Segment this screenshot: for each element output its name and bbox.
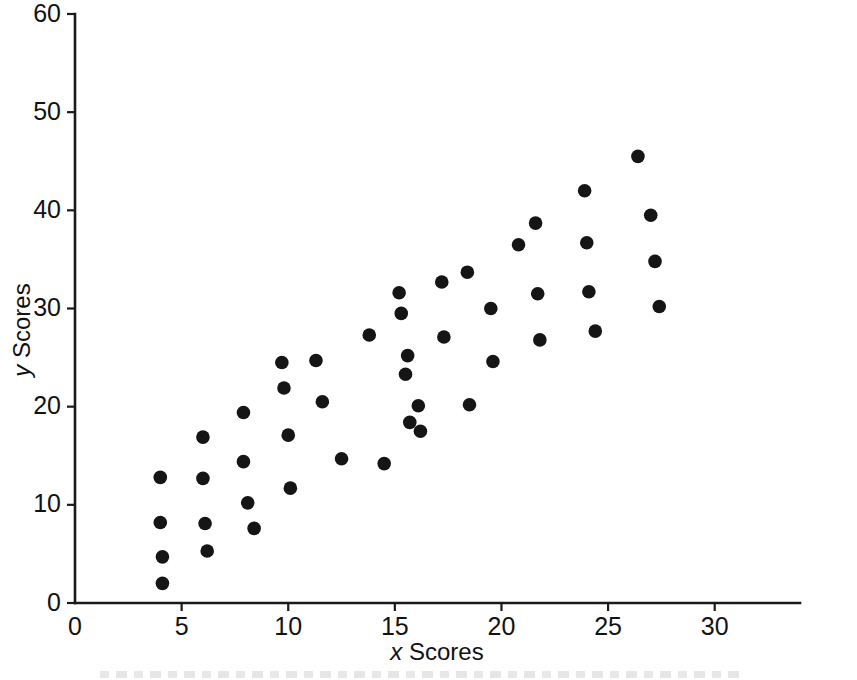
data-point <box>316 395 330 409</box>
data-point <box>394 307 408 321</box>
data-point <box>531 287 545 301</box>
y-tick-label: 60 <box>33 0 61 27</box>
x-tick-label: 30 <box>701 612 729 640</box>
x-tick-label: 15 <box>381 612 409 640</box>
x-tick-label: 10 <box>274 612 302 640</box>
y-tick-label: 50 <box>33 97 61 125</box>
y-axis-title: y Scores <box>8 283 35 378</box>
y-tick-label: 10 <box>33 489 61 517</box>
y-tick-label: 20 <box>33 391 61 419</box>
x-axis-ticks: 051015202530 <box>68 603 729 640</box>
data-point <box>196 472 210 486</box>
data-points-group <box>153 150 666 591</box>
data-point <box>196 430 210 444</box>
data-point <box>377 457 391 471</box>
data-point <box>156 577 170 591</box>
data-point <box>588 324 602 338</box>
data-point <box>580 236 594 250</box>
data-point <box>529 216 543 230</box>
data-point <box>484 302 498 316</box>
data-point <box>362 328 376 342</box>
data-point <box>648 255 662 269</box>
data-point <box>281 428 295 442</box>
plot-svg: 0102030405060 051015202530 y Scores x Sc… <box>0 0 857 680</box>
data-point <box>241 496 255 510</box>
data-point <box>309 354 323 368</box>
data-point <box>247 522 261 536</box>
data-point <box>401 349 415 363</box>
data-point <box>335 452 349 466</box>
data-point <box>631 150 645 164</box>
data-point <box>153 471 167 485</box>
data-point <box>156 550 170 564</box>
y-tick-label: 0 <box>47 588 61 616</box>
y-axis-ticks: 0102030405060 <box>33 0 75 616</box>
data-point <box>652 300 666 314</box>
x-axis-title: x Scores <box>389 638 483 665</box>
data-point <box>277 381 291 395</box>
data-point <box>284 481 298 495</box>
data-point <box>403 416 417 430</box>
y-tick-label: 30 <box>33 293 61 321</box>
x-tick-label: 5 <box>175 612 189 640</box>
x-tick-label: 25 <box>594 612 622 640</box>
data-point <box>200 544 214 558</box>
data-point <box>414 424 428 438</box>
data-point <box>392 286 406 300</box>
data-point <box>578 184 592 198</box>
data-point <box>153 516 167 530</box>
data-point <box>435 275 449 289</box>
data-point <box>463 398 477 412</box>
data-point <box>399 367 413 381</box>
data-point <box>644 208 658 222</box>
data-point <box>437 330 451 344</box>
data-point <box>533 333 547 347</box>
x-tick-label: 0 <box>68 612 82 640</box>
x-tick-label: 20 <box>488 612 516 640</box>
y-tick-label: 40 <box>33 195 61 223</box>
data-point <box>237 406 251 420</box>
data-point <box>198 517 212 531</box>
data-point <box>512 238 526 252</box>
data-point <box>461 265 475 279</box>
scatter-plot-figure: 0102030405060 051015202530 y Scores x Sc… <box>0 0 857 680</box>
data-point <box>237 455 251 469</box>
data-point <box>275 356 289 370</box>
data-point <box>486 355 500 369</box>
data-point <box>582 285 596 299</box>
data-point <box>412 399 426 413</box>
